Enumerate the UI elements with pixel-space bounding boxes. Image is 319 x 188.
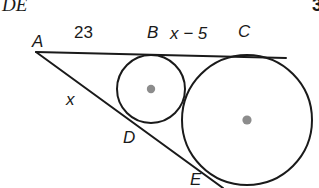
vertex-label-a: A	[32, 33, 43, 50]
tangent-point-label-c: C	[238, 23, 250, 40]
tangent-point-label-d: D	[123, 129, 135, 146]
segment-length-ad: x	[66, 91, 75, 108]
segment-length-ab: 23	[74, 24, 93, 41]
lower-tangent-line	[36, 52, 223, 188]
diagram-page: DE 3 A 23 B x − 5 C x D E	[0, 0, 319, 188]
tangent-point-label-b: B	[147, 24, 158, 41]
geometry-figure	[0, 0, 319, 188]
tangent-point-label-e: E	[190, 171, 201, 188]
large-circle-center-dot	[242, 115, 251, 124]
segment-length-bc: x − 5	[170, 25, 207, 42]
small-circle-center-dot	[147, 85, 155, 93]
